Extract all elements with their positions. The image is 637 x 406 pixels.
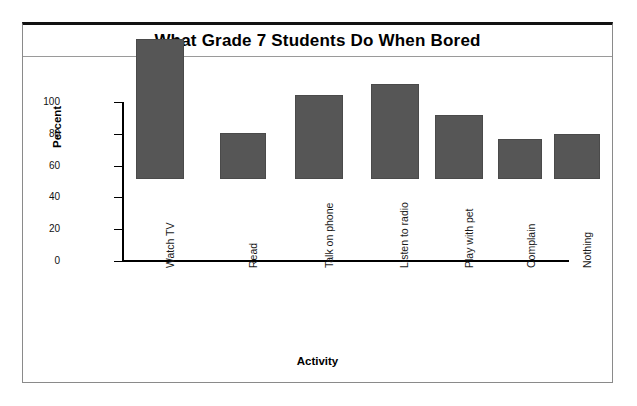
- x-tick-label-talk-on-phone: Talk on phone: [324, 203, 335, 268]
- y-tick-mark: [114, 261, 122, 262]
- y-tick-mark: [114, 102, 122, 103]
- y-axis-title: Percent: [51, 106, 63, 148]
- y-tick-mark: [114, 229, 122, 230]
- x-tick-label-listen-to-radio: Listen to radio: [399, 202, 410, 268]
- x-tick-label-read: Read: [248, 243, 259, 268]
- x-tick-label-watch-tv: Watch TV: [165, 222, 176, 268]
- y-axis-line: [122, 102, 124, 262]
- y-tick-mark: [114, 134, 122, 135]
- y-tick-label: 0: [20, 256, 60, 266]
- y-tick-mark: [114, 166, 122, 167]
- y-tick-mark: [114, 197, 122, 198]
- x-axis-line: [122, 260, 569, 262]
- bar-play-with-pet: [435, 115, 483, 179]
- x-tick-label-nothing: Nothing: [582, 232, 593, 268]
- page-title: What Grade 7 Students Do When Bored: [154, 31, 480, 51]
- y-tick-label: 20: [20, 224, 60, 234]
- y-tick-label: 80: [20, 129, 60, 139]
- bar-nothing: [554, 134, 600, 179]
- y-tick-label: 100: [20, 97, 60, 107]
- x-tick-label-complain: Complain: [526, 224, 537, 268]
- bar-read: [220, 133, 266, 179]
- bar-watch-tv: [136, 39, 184, 179]
- y-tick-label: 40: [20, 192, 60, 202]
- bar-listen-to-radio: [371, 84, 419, 179]
- bar-talk-on-phone: [295, 95, 343, 179]
- chart-figure-frame: What Grade 7 Students Do When Bored Perc…: [22, 22, 613, 383]
- chart-title-band: What Grade 7 Students Do When Bored: [23, 25, 612, 57]
- plot-area: Percent 0 20 40 60 80 100 Watch TV Read …: [23, 58, 612, 382]
- x-tick-label-play-with-pet: Play with pet: [464, 208, 475, 268]
- y-tick-label: 60: [20, 161, 60, 171]
- x-axis-title: Activity: [23, 355, 612, 367]
- bar-complain: [498, 139, 542, 179]
